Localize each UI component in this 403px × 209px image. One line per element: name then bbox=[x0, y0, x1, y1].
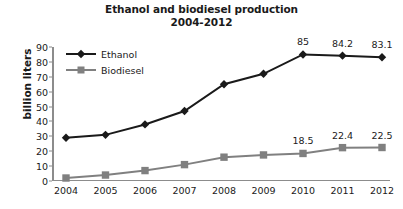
data-point-marker[interactable] bbox=[339, 144, 346, 151]
chart-legend: Ethanol Biodiesel bbox=[66, 46, 176, 78]
chart-title: Ethanol and biodiesel production 2004-20… bbox=[0, 3, 403, 29]
data-point-label: 22.4 bbox=[332, 130, 353, 141]
data-point-marker[interactable] bbox=[259, 70, 267, 78]
data-point-marker[interactable] bbox=[299, 50, 307, 58]
data-point-marker[interactable] bbox=[62, 174, 69, 181]
data-point-label: 85 bbox=[297, 36, 309, 47]
legend-label-ethanol: Ethanol bbox=[101, 49, 137, 60]
y-tick-label: 10 bbox=[24, 161, 48, 172]
x-tick-label: 2008 bbox=[212, 185, 236, 196]
y-tick-label: 20 bbox=[24, 146, 48, 157]
data-point-marker[interactable] bbox=[62, 134, 70, 142]
data-point-marker[interactable] bbox=[338, 51, 346, 59]
series-line-biodiesel bbox=[66, 148, 382, 179]
y-tick-label: 30 bbox=[24, 131, 48, 142]
data-point-marker[interactable] bbox=[378, 53, 386, 61]
y-tick-label: 50 bbox=[24, 101, 48, 112]
legend-item-ethanol[interactable]: Ethanol bbox=[66, 46, 176, 62]
x-tick-label: 2006 bbox=[133, 185, 157, 196]
chart-title-line1: Ethanol and biodiesel production bbox=[105, 3, 298, 15]
y-tick-label: 90 bbox=[24, 42, 48, 53]
x-tick-label: 2004 bbox=[54, 185, 78, 196]
y-tick-label: 40 bbox=[24, 116, 48, 127]
x-tick-label: 2005 bbox=[93, 185, 117, 196]
chart-title-line2: 2004-2012 bbox=[0, 16, 403, 29]
x-tick-label: 2010 bbox=[291, 185, 315, 196]
legend-label-biodiesel: Biodiesel bbox=[101, 65, 144, 76]
x-tick-label: 2012 bbox=[370, 185, 394, 196]
y-tick-label: 70 bbox=[24, 71, 48, 82]
y-tick-label: 60 bbox=[24, 86, 48, 97]
data-point-marker[interactable] bbox=[220, 153, 227, 160]
x-tick-label: 2011 bbox=[330, 185, 354, 196]
ethanol-series-marker-icon bbox=[66, 48, 96, 60]
data-point-marker[interactable] bbox=[299, 150, 306, 157]
biodiesel-series-marker-icon bbox=[66, 64, 96, 76]
data-point-marker[interactable] bbox=[141, 167, 148, 174]
data-point-marker[interactable] bbox=[102, 171, 109, 178]
legend-item-biodiesel[interactable]: Biodiesel bbox=[66, 62, 176, 78]
data-point-label: 83.1 bbox=[371, 39, 392, 50]
data-point-label: 18.5 bbox=[292, 135, 313, 146]
data-point-marker[interactable] bbox=[378, 144, 385, 151]
y-tick-label: 0 bbox=[24, 176, 48, 187]
x-tick-label: 2009 bbox=[251, 185, 275, 196]
data-point-marker[interactable] bbox=[141, 120, 149, 128]
chart-container: Ethanol and biodiesel production 2004-20… bbox=[0, 0, 403, 209]
x-tick-label: 2007 bbox=[172, 185, 196, 196]
y-tick-label: 80 bbox=[24, 56, 48, 67]
data-point-marker[interactable] bbox=[101, 131, 109, 139]
data-point-label: 84.2 bbox=[332, 38, 353, 49]
data-point-label: 22.5 bbox=[371, 130, 392, 141]
data-point-marker[interactable] bbox=[260, 151, 267, 158]
data-point-marker[interactable] bbox=[181, 161, 188, 168]
